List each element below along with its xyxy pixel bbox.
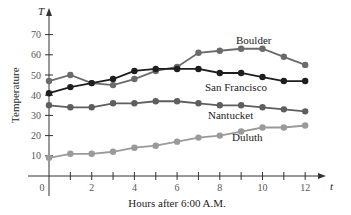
- x-tick-label: 6: [175, 182, 180, 193]
- data-point: [195, 134, 201, 140]
- series-duluth: [46, 122, 309, 161]
- data-point: [131, 68, 137, 74]
- series-label-duluth: Duluth: [232, 131, 263, 143]
- x-axis-arrow-icon: [318, 173, 326, 179]
- y-tick-label: 10: [31, 150, 41, 161]
- data-point: [259, 46, 265, 52]
- data-point: [153, 98, 159, 104]
- data-point: [89, 151, 95, 157]
- x-tick-label: 10: [258, 182, 268, 193]
- data-point: [153, 143, 159, 149]
- data-point: [217, 132, 223, 138]
- x-tick-label: 8: [217, 182, 222, 193]
- y-tick-label: 60: [31, 49, 41, 60]
- data-point: [302, 108, 308, 114]
- data-point: [195, 100, 201, 106]
- data-point: [238, 70, 244, 76]
- y-tick-label: 20: [31, 130, 41, 141]
- data-point: [131, 145, 137, 151]
- data-point: [259, 124, 265, 130]
- data-point: [174, 66, 180, 72]
- series-label-nantucket: Nantucket: [208, 109, 253, 121]
- data-point: [174, 98, 180, 104]
- data-point: [131, 100, 137, 106]
- x-tick-label: 2: [89, 182, 94, 193]
- data-point: [238, 46, 244, 52]
- x-tick-label: 0: [40, 182, 45, 193]
- series-nantucket: [46, 98, 309, 115]
- data-point: [110, 82, 116, 88]
- data-point: [89, 104, 95, 110]
- data-point: [46, 155, 52, 161]
- data-point: [217, 102, 223, 108]
- data-point: [67, 84, 73, 90]
- data-point: [46, 78, 52, 84]
- y-axis-arrow-icon: [46, 8, 52, 16]
- data-point: [217, 48, 223, 54]
- x-axis-letter: t: [330, 180, 334, 192]
- series-label-san-francisco: San Francisco: [205, 81, 268, 93]
- data-point: [259, 74, 265, 80]
- y-axis-title: Temperature: [9, 67, 21, 123]
- series-label-boulder: Boulder: [236, 34, 272, 46]
- y-tick-label: 70: [31, 29, 41, 40]
- y-axis-letter: T: [38, 5, 45, 17]
- x-tick-label: 4: [132, 182, 137, 193]
- y-tick-label: 50: [31, 70, 41, 81]
- data-point: [217, 70, 223, 76]
- data-point: [67, 151, 73, 157]
- data-point: [238, 102, 244, 108]
- data-point: [89, 80, 95, 86]
- y-tick-label: 30: [31, 110, 41, 121]
- temperature-chart: 02468101210203040506070 TtHours after 6:…: [0, 0, 351, 215]
- x-tick-label: 12: [300, 182, 310, 193]
- data-point: [302, 62, 308, 68]
- data-point: [281, 54, 287, 60]
- series-group: [46, 46, 309, 161]
- data-point: [195, 66, 201, 72]
- data-point: [302, 78, 308, 84]
- data-point: [259, 104, 265, 110]
- data-point: [281, 106, 287, 112]
- data-point: [67, 104, 73, 110]
- data-point: [195, 50, 201, 56]
- data-point: [281, 124, 287, 130]
- y-tick-label: 40: [31, 90, 41, 101]
- data-point: [46, 102, 52, 108]
- data-point: [153, 66, 159, 72]
- data-point: [110, 76, 116, 82]
- data-point: [46, 90, 52, 96]
- data-point: [67, 72, 73, 78]
- data-point: [281, 78, 287, 84]
- data-point: [131, 76, 137, 82]
- data-point: [110, 149, 116, 155]
- data-point: [174, 138, 180, 144]
- data-point: [302, 122, 308, 128]
- data-point: [110, 100, 116, 106]
- x-axis-title: Hours after 6:00 A.M.: [128, 197, 226, 209]
